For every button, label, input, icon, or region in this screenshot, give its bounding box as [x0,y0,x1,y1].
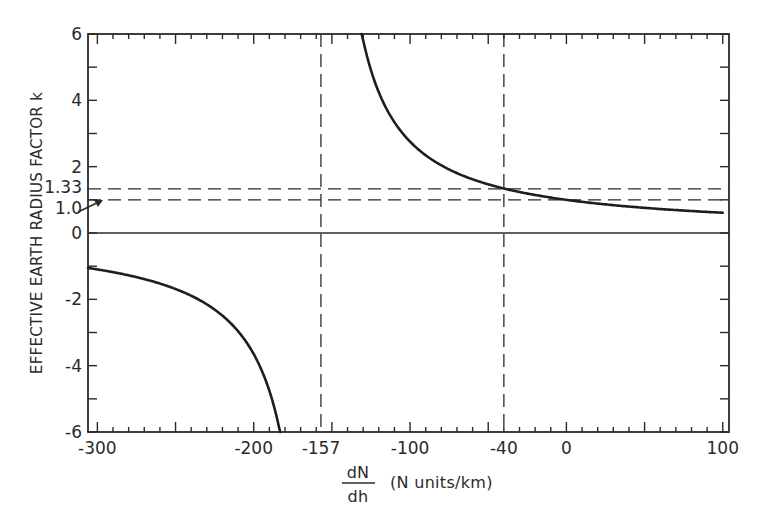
x-tick-label: -100 [391,438,430,458]
data-curve-2 [88,268,280,432]
y-tick-label: 0 [71,223,82,243]
x-axis-title-numerator: dN [347,463,370,482]
x-tick-label: 0 [561,438,572,458]
x-axis-title: dN dh (N units/km) [342,463,493,506]
x-tick-label: -300 [78,438,117,458]
y-tick-label: 1.0 [55,198,82,218]
y-axis-title: EFFECTIVE EARTH RADIUS FACTOR k [28,92,46,374]
y-tick-label: -2 [65,289,82,309]
y-tick-label: -4 [65,356,82,376]
x-tick-label: -200 [234,438,273,458]
y-tick-label: 4 [71,90,82,110]
y-tick-label: 2 [71,157,82,177]
x-axis-title-units: (N units/km) [390,473,493,492]
data-curve-1 [362,34,723,213]
reference-lines [88,34,729,432]
y-tick-label: 1.33 [44,177,82,197]
y-tick-labels: 6421.331.00-2-4-6 [44,24,82,442]
y-tick-label: 6 [71,24,82,44]
x-tick-labels: -300-200-157-100-400100 [78,438,739,458]
x-tick-label: -40 [490,438,518,458]
chart: 6421.331.00-2-4-6 -300-200-157-100-40010… [0,0,761,526]
x-tick-label: -157 [302,438,341,458]
x-tick-label: 100 [707,438,739,458]
x-axis-title-denominator: dh [348,487,369,506]
